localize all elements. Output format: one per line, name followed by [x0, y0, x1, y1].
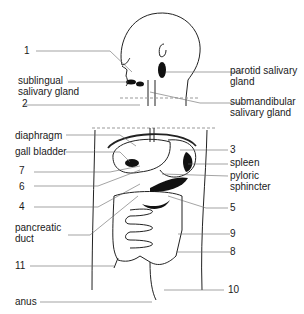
label-submandibular-line2: salivary gland — [230, 107, 291, 118]
torso-right — [202, 130, 207, 290]
label-gall-bladder: gall bladder — [15, 146, 67, 157]
label-diaphragm: diaphragm — [15, 130, 62, 141]
label-5: 5 — [230, 202, 236, 213]
label-9: 9 — [230, 228, 236, 239]
pancreas — [150, 177, 188, 192]
label-parotid-line1: parotid salivary — [230, 65, 297, 76]
head-outline — [121, 13, 200, 106]
label-2: 2 — [22, 98, 28, 109]
label-spleen: spleen — [230, 157, 259, 168]
gall-bladder — [125, 159, 139, 167]
label-pyloric-line2: sphincter — [230, 181, 271, 192]
label-sublingual-line1: sublingual — [18, 75, 63, 86]
label-anus: anus — [15, 296, 37, 307]
label-11: 11 — [15, 260, 25, 271]
submandibular-gland — [136, 82, 144, 87]
label-3: 3 — [230, 144, 236, 155]
label-1: 1 — [24, 45, 30, 56]
label-sublingual-line2: salivary gland — [18, 86, 79, 97]
label-pancreatic-line1: pancreatic — [15, 222, 61, 233]
label-submandibular-line1: submandibular — [230, 96, 296, 107]
label-10: 10 — [228, 284, 239, 295]
label-parotid-line2: gland — [230, 76, 254, 87]
parotid-gland — [158, 62, 166, 78]
label-8: 8 — [230, 246, 236, 257]
spleen — [183, 152, 192, 172]
label-pyloric-line1: pyloric — [230, 170, 259, 181]
label-7: 7 — [19, 165, 25, 176]
label-4: 4 — [19, 201, 25, 212]
label-pancreatic-line2: duct — [15, 233, 34, 244]
label-6: 6 — [19, 181, 25, 192]
